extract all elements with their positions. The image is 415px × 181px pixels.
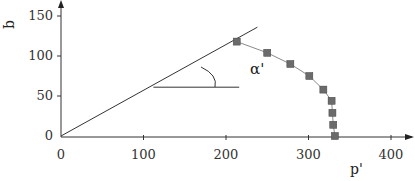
x-tick-label: 0 bbox=[57, 147, 65, 162]
x-tick-label: 400 bbox=[379, 147, 404, 162]
y-tick-label: 50 bbox=[36, 88, 53, 103]
y-tick-label: 150 bbox=[28, 8, 53, 23]
x-axis-arrow-icon bbox=[405, 134, 414, 140]
y-axis-arrow-icon bbox=[58, 0, 64, 8]
x-tick-label: 100 bbox=[131, 147, 156, 162]
y-tick-label: 100 bbox=[28, 48, 53, 63]
y-tick-label: 0 bbox=[45, 128, 53, 143]
x-axis-title: p' bbox=[350, 161, 363, 177]
angle-arc bbox=[201, 67, 215, 87]
square-marker bbox=[287, 61, 294, 68]
y-axis-title: q bbox=[3, 20, 19, 29]
chart: 0100200300400050100150 p' q α' bbox=[0, 0, 415, 181]
square-marker bbox=[330, 121, 337, 128]
square-marker bbox=[306, 73, 313, 80]
x-tick-label: 200 bbox=[214, 147, 239, 162]
axes bbox=[58, 0, 414, 140]
square-marker bbox=[329, 109, 336, 116]
angle-annotation: α' bbox=[250, 60, 264, 78]
x-tick-label: 300 bbox=[296, 147, 321, 162]
square-marker bbox=[331, 133, 338, 140]
square-marker bbox=[320, 86, 327, 93]
square-marker bbox=[328, 97, 335, 104]
plot-lines bbox=[61, 27, 335, 136]
square-marker bbox=[264, 49, 271, 56]
square-marker bbox=[233, 38, 240, 45]
data-markers bbox=[233, 38, 338, 139]
failure-envelope-line bbox=[61, 27, 257, 136]
